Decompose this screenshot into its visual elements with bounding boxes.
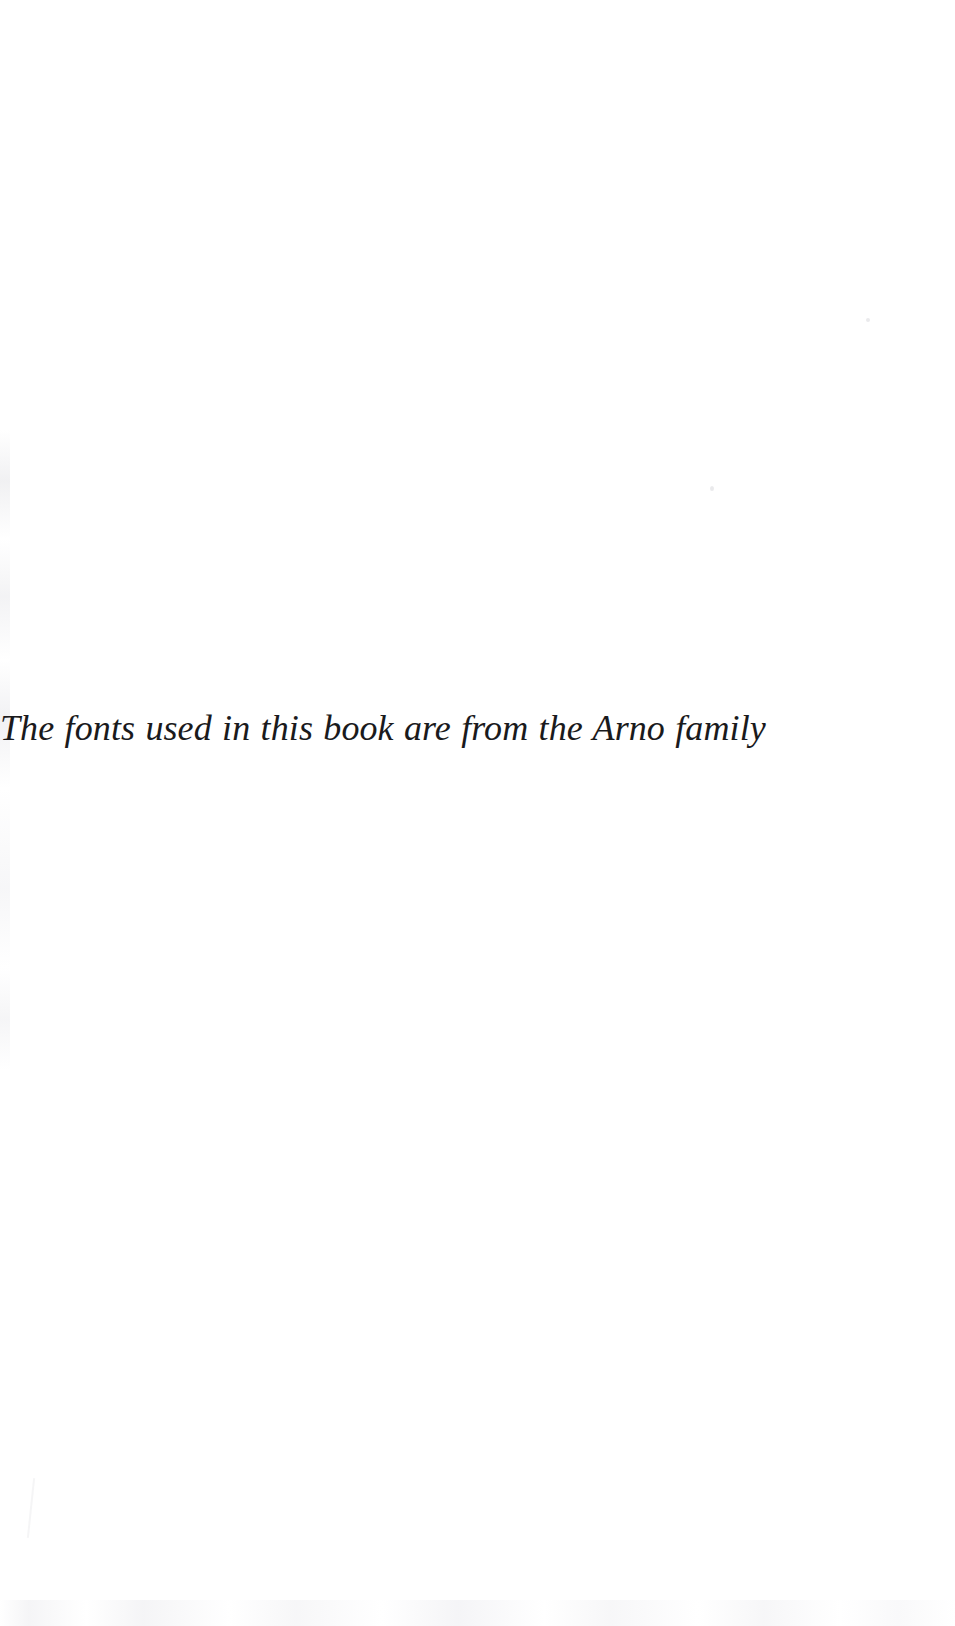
scan-speck-upper-right	[866, 318, 870, 322]
colophon-text: The fonts used in this book are from the…	[0, 706, 766, 750]
colophon-line: The fonts used in this book are from the…	[0, 706, 955, 750]
bottom-scan-hairline	[27, 1478, 35, 1538]
scan-speck-mid-right	[710, 486, 714, 491]
left-edge-scan-streak	[0, 430, 10, 1070]
book-page: The fonts used in this book are from the…	[0, 0, 955, 1626]
bottom-edge-scan-smudge	[0, 1600, 955, 1626]
